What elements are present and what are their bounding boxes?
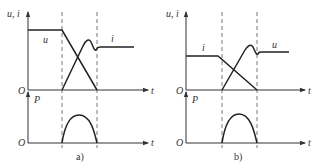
ui-axis-label-a: u, i bbox=[7, 8, 20, 19]
panel-b: u, i O t i u P O t b) bbox=[166, 8, 311, 163]
t-label-lower-b: t bbox=[308, 137, 311, 148]
origin-label-upper-a: O bbox=[18, 85, 25, 96]
caption-a: a) bbox=[76, 151, 84, 163]
caption-b: b) bbox=[234, 151, 242, 163]
panel-a: u, i O t u i P O t a) bbox=[7, 8, 154, 163]
current-curve-b bbox=[186, 56, 257, 90]
origin-label-lower-a: O bbox=[18, 137, 25, 148]
t-label-lower-a: t bbox=[151, 137, 154, 148]
voltage-curve-a bbox=[28, 30, 97, 90]
u-curve-label-b: u bbox=[272, 39, 277, 50]
p-axis-label-a: P bbox=[33, 94, 40, 105]
i-curve-label-a: i bbox=[111, 33, 114, 44]
power-loss-curve-b bbox=[222, 114, 257, 143]
i-curve-label-b: i bbox=[202, 42, 205, 53]
origin-label-lower-b: O bbox=[176, 137, 183, 148]
origin-label-upper-b: O bbox=[176, 85, 183, 96]
ui-axis-label-b: u, i bbox=[166, 8, 179, 19]
t-label-upper-b: t bbox=[308, 85, 311, 96]
p-axis-label-b: P bbox=[191, 94, 198, 105]
u-curve-label-a: u bbox=[43, 34, 48, 45]
power-loss-curve-a bbox=[62, 115, 97, 143]
t-label-upper-a: t bbox=[151, 85, 154, 96]
switching-waveforms-diagram: u, i O t u i P O t a) u, i O t i u bbox=[0, 0, 320, 168]
